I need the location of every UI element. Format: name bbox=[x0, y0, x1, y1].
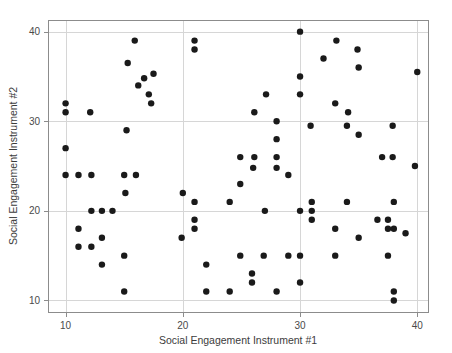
data-point bbox=[203, 261, 209, 267]
data-point bbox=[307, 123, 313, 129]
data-point bbox=[122, 190, 128, 196]
data-point bbox=[237, 252, 243, 258]
data-point bbox=[62, 100, 68, 106]
y-axis-label: Social Engagement Instrument #2 bbox=[7, 87, 19, 245]
data-point bbox=[309, 208, 315, 214]
data-point bbox=[273, 288, 279, 294]
data-point bbox=[178, 235, 184, 241]
data-point bbox=[355, 235, 361, 241]
chart-canvas: 10203040 10203040 Social Engagement Inst… bbox=[0, 0, 452, 353]
data-point bbox=[297, 208, 303, 214]
data-point bbox=[121, 172, 127, 178]
data-point bbox=[227, 199, 233, 205]
data-point bbox=[389, 123, 395, 129]
data-point bbox=[62, 109, 68, 115]
data-point bbox=[150, 71, 156, 77]
data-point bbox=[273, 165, 279, 171]
data-point bbox=[344, 123, 350, 129]
y-tick-label-30: 30 bbox=[29, 116, 41, 127]
scatter-plot-figure: 10203040 10203040 Social Engagement Inst… bbox=[0, 0, 452, 353]
data-point bbox=[146, 91, 152, 97]
data-point bbox=[125, 60, 131, 66]
x-tick-label-40: 40 bbox=[412, 320, 424, 331]
data-point bbox=[332, 226, 338, 232]
data-point bbox=[191, 217, 197, 223]
data-point bbox=[99, 208, 105, 214]
data-point bbox=[273, 154, 279, 160]
data-point bbox=[273, 136, 279, 142]
data-point bbox=[297, 28, 303, 34]
data-point bbox=[414, 69, 420, 75]
data-point bbox=[75, 226, 81, 232]
data-point bbox=[285, 172, 291, 178]
data-point bbox=[391, 297, 397, 303]
data-point bbox=[250, 165, 256, 171]
data-point bbox=[391, 226, 397, 232]
y-tick-label-10: 10 bbox=[29, 295, 41, 306]
data-point bbox=[355, 64, 361, 70]
data-point bbox=[345, 109, 351, 115]
data-point bbox=[309, 199, 315, 205]
data-point bbox=[332, 252, 338, 258]
data-point bbox=[374, 217, 380, 223]
data-point bbox=[402, 230, 408, 236]
data-point bbox=[391, 288, 397, 294]
data-point bbox=[344, 199, 350, 205]
data-point bbox=[133, 172, 139, 178]
data-point bbox=[273, 118, 279, 124]
data-point bbox=[385, 226, 391, 232]
data-point bbox=[385, 252, 391, 258]
x-axis-label: Social Engagement Instrument #1 bbox=[159, 334, 317, 346]
data-point bbox=[191, 199, 197, 205]
data-point bbox=[62, 172, 68, 178]
data-point bbox=[391, 199, 397, 205]
data-point bbox=[99, 235, 105, 241]
data-point bbox=[262, 208, 268, 214]
data-point bbox=[109, 208, 115, 214]
data-point bbox=[385, 217, 391, 223]
x-tick-label-20: 20 bbox=[177, 320, 189, 331]
x-tick-label-10: 10 bbox=[60, 320, 72, 331]
data-point bbox=[141, 75, 147, 81]
data-point bbox=[191, 46, 197, 52]
data-point bbox=[88, 208, 94, 214]
data-point bbox=[121, 252, 127, 258]
data-point bbox=[297, 279, 303, 285]
data-point bbox=[332, 100, 338, 106]
data-point bbox=[191, 37, 197, 43]
data-point bbox=[263, 91, 269, 97]
data-point bbox=[121, 288, 127, 294]
data-point bbox=[237, 154, 243, 160]
data-point bbox=[88, 172, 94, 178]
data-point bbox=[132, 37, 138, 43]
data-point bbox=[261, 252, 267, 258]
x-tick-label-30: 30 bbox=[294, 320, 306, 331]
data-point bbox=[75, 243, 81, 249]
data-point bbox=[412, 163, 418, 169]
data-point bbox=[75, 172, 81, 178]
data-point bbox=[379, 154, 385, 160]
data-point bbox=[88, 243, 94, 249]
data-point bbox=[297, 252, 303, 258]
data-point bbox=[227, 288, 233, 294]
data-point bbox=[309, 217, 315, 223]
data-point bbox=[249, 270, 255, 276]
data-point bbox=[285, 252, 291, 258]
data-point bbox=[389, 154, 395, 160]
data-point bbox=[320, 55, 326, 61]
data-point bbox=[87, 109, 93, 115]
data-point bbox=[203, 288, 209, 294]
data-point bbox=[333, 37, 339, 43]
data-point bbox=[237, 181, 243, 187]
data-point bbox=[297, 73, 303, 79]
data-point bbox=[297, 91, 303, 97]
plot-area-background bbox=[48, 20, 429, 313]
y-tick-label-20: 20 bbox=[29, 205, 41, 216]
data-point bbox=[355, 131, 361, 137]
data-point bbox=[135, 82, 141, 88]
data-point bbox=[191, 226, 197, 232]
data-point bbox=[251, 109, 257, 115]
data-point bbox=[62, 145, 68, 151]
data-point bbox=[99, 261, 105, 267]
data-point bbox=[354, 46, 360, 52]
